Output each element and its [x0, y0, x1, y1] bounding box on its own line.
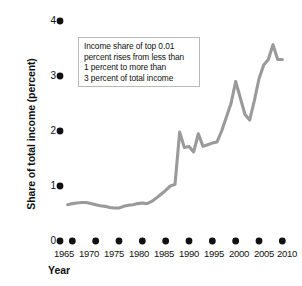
x-tick-dots	[69, 238, 286, 245]
chart-container: Share of total income (percent) 4 3 2 1 …	[0, 0, 302, 286]
annotation-line-4: 3 percent of total income	[84, 73, 195, 84]
y-tick-dots	[57, 18, 64, 245]
annotation-line-2: percent rises from less than	[84, 52, 195, 63]
annotation-line-1: Income share of top 0.01	[84, 41, 195, 52]
annotation-line-3: 1 percent to more than	[84, 62, 195, 73]
annotation-callout-box: Income share of top 0.01 percent rises f…	[78, 37, 200, 87]
